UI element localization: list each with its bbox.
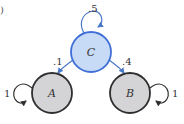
edge-c-to-c: .5 (81, 3, 101, 33)
node-label-a: A (47, 87, 56, 100)
edge-label-c-b: .4 (122, 56, 132, 67)
edge-label-b-b: 1 (172, 88, 178, 99)
edge-c-to-b: .4 (109, 56, 132, 73)
markov-chain-diagram: ) .5 .1 .4 1 1 C A B (0, 0, 184, 124)
edge-c-to-a: .1 (53, 56, 73, 73)
edge-label-c-c: .5 (88, 3, 98, 14)
node-b: B (110, 73, 150, 113)
edge-label-c-a: .1 (53, 56, 63, 67)
corner-mark: ) (0, 4, 4, 15)
edge-label-a-a: 1 (4, 88, 10, 99)
node-c: C (71, 32, 111, 72)
node-label-b: B (125, 87, 134, 100)
edge-b-to-b: 1 (150, 84, 178, 103)
node-label-c: C (87, 46, 96, 59)
node-a: A (32, 73, 72, 113)
edge-a-to-a: 1 (4, 84, 32, 103)
